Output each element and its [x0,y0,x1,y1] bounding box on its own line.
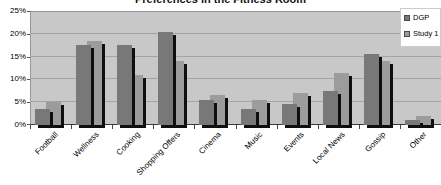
x-axis-label-text: Football [33,130,59,156]
y-axis-label: 20% [0,29,26,38]
x-axis-tick [194,125,195,129]
bar-dgp-other [405,120,420,125]
x-axis-tick [318,125,319,129]
x-axis-tick [153,125,154,129]
bar-dgp-cinema [199,100,214,125]
y-axis-label: 10% [0,74,26,83]
x-axis-label-text: Gossip [363,130,387,154]
bar-dgp-music [241,109,256,125]
legend-label-study1: Study 1 [413,29,438,38]
x-axis-tick [112,125,113,129]
x-axis-tick [71,125,72,129]
x-axis-tick [359,125,360,129]
x-axis-label-text: Wellness [71,130,100,159]
x-axis-label-text: Local News [311,130,347,166]
x-axis-label-text: Cooking [114,130,141,157]
bar-dgp-cooking [117,45,132,125]
x-axis-label-text: Music [243,130,264,151]
y-axis-tick [27,11,30,12]
legend-marker-dgp-icon [404,15,410,21]
legend-label-dgp: DGP [413,13,429,22]
y-axis-label: 15% [0,52,26,61]
y-axis-label: 25% [0,6,26,15]
x-axis-tick [277,125,278,129]
x-axis-tick [236,125,237,129]
y-axis-tick [27,79,30,80]
y-axis-tick [27,102,30,103]
y-axis-label: 5% [0,97,26,106]
bar-dgp-events [282,104,297,125]
x-axis-label-text: Other [408,130,429,151]
x-axis-tick [400,125,401,129]
bar-dgp-local-news [323,91,338,125]
chart-title: Preferences in the Fitness Room [0,0,441,5]
gridline-20% [30,33,441,34]
bar-chart: Preferences in the Fitness Room 0%5%10%1… [0,0,441,185]
bar-dgp-football [35,109,50,125]
bar-dgp-shopping-offers [158,32,173,125]
legend-item-dgp: DGP [404,13,440,22]
bar-dgp-gossip [364,54,379,125]
bar-dgp-wellness [76,45,91,125]
y-axis-tick [27,57,30,58]
x-axis-label-text: Shopping Offers [135,130,182,177]
x-axis-label-text: Events [282,130,306,154]
legend: DGP Study 1 [400,8,441,47]
y-axis-tick [27,34,30,35]
y-axis-label: 0% [0,120,26,129]
x-axis-tick [30,125,31,129]
legend-item-study1: Study 1 [404,29,440,38]
x-axis-label-text: Cinema [197,130,223,156]
legend-marker-study1-icon [404,31,410,37]
